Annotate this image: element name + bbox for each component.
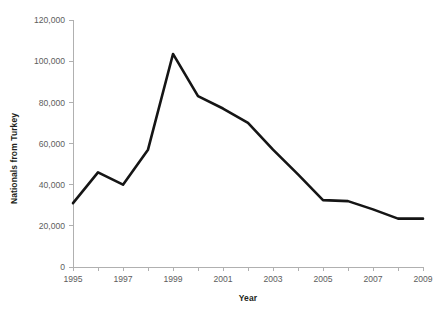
x-tick-label: 2003 — [263, 274, 282, 284]
y-tick-label: 120,000 — [34, 15, 65, 25]
x-tick-label: 1997 — [113, 274, 132, 284]
line-chart: Nationals from Turkey 020,00040,00060,00… — [0, 0, 440, 317]
plot-area: 020,00040,00060,00080,000100,000120,0001… — [0, 0, 440, 317]
x-tick-label: 1999 — [163, 274, 182, 284]
x-tick-label: 2005 — [313, 274, 332, 284]
x-tick-label: 2009 — [413, 274, 432, 284]
y-tick-label: 100,000 — [34, 56, 65, 66]
y-tick-label: 60,000 — [39, 139, 66, 149]
y-tick-label: 20,000 — [39, 221, 66, 231]
data-series-line — [73, 54, 423, 219]
y-tick-label: 0 — [60, 262, 65, 272]
x-tick-label: 1995 — [63, 274, 82, 284]
y-tick-label: 80,000 — [39, 98, 66, 108]
x-axis-title: Year — [73, 293, 423, 303]
x-tick-label: 2001 — [213, 274, 232, 284]
x-tick-label: 2007 — [363, 274, 382, 284]
y-tick-label: 40,000 — [39, 180, 66, 190]
